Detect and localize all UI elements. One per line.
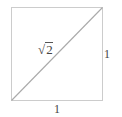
bottom-side-length-label: 1 bbox=[54, 103, 60, 115]
diagonal-line bbox=[12, 8, 103, 101]
right-side-length-label: 1 bbox=[104, 48, 110, 60]
square-root-symbol: √ bbox=[38, 43, 45, 56]
radicand: 2 bbox=[45, 42, 53, 57]
diagonal-length-label: √2 bbox=[38, 42, 53, 57]
